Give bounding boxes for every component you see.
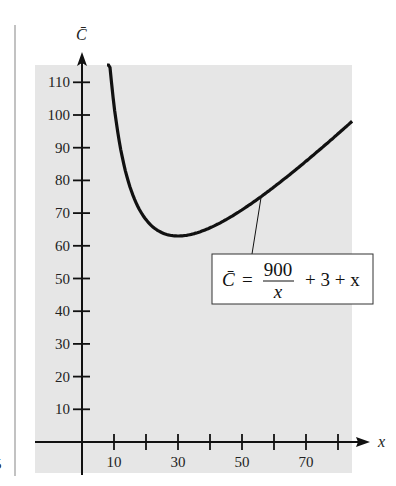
y-tick-label: 80: [55, 172, 70, 188]
y-tick-label: 110: [48, 74, 70, 90]
margin-mark: 5: [0, 456, 2, 472]
y-tick-label: 30: [55, 336, 70, 352]
formula-denominator: x: [273, 281, 283, 302]
y-tick-label: 50: [55, 271, 70, 287]
x-tick-label: 50: [235, 454, 250, 470]
formula-box: C̄ = 900 x + 3 + x: [212, 254, 373, 304]
x-tick-label: 10: [107, 454, 122, 470]
y-tick-label: 10: [55, 401, 70, 417]
formula-rest: + 3 + x: [305, 269, 360, 290]
y-tick-label: 70: [55, 205, 70, 221]
y-tick-label: 90: [55, 140, 70, 156]
y-tick-label: 100: [48, 107, 71, 123]
x-axis-label: x: [377, 433, 385, 450]
x-axis-arrow: [356, 437, 370, 447]
x-tick-label: 30: [171, 454, 186, 470]
chart: 5 xC̄ 10305070102030405060708090100110 C…: [0, 0, 396, 486]
x-tick-label: 70: [299, 454, 314, 470]
formula-numerator: 900: [264, 259, 293, 280]
formula-equals: =: [242, 269, 253, 290]
y-tick-label: 60: [55, 238, 70, 254]
y-tick-label: 40: [55, 303, 70, 319]
y-tick-label: 20: [55, 369, 70, 385]
formula-lhs: C̄: [222, 269, 235, 290]
y-axis-label: C̄: [76, 26, 87, 43]
